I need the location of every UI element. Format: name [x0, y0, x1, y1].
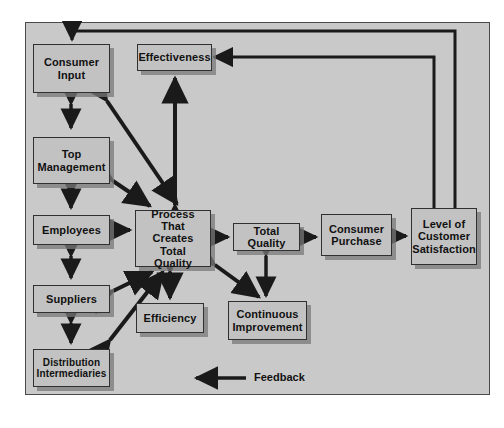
- node-suppliers: Suppliers: [33, 285, 110, 313]
- node-total-quality: Total Quality: [233, 223, 300, 251]
- node-label: Process ThatCreates TotalQuality: [136, 208, 210, 270]
- arrow-process-continuous-improvement: [215, 265, 259, 297]
- node-top-management: TopManagement: [33, 137, 110, 184]
- feedback-loop-effectiveness: [214, 57, 434, 208]
- node-label: Total Quality: [234, 225, 299, 250]
- node-label: ContinuousImprovement: [230, 308, 304, 333]
- node-consumer-purchase: ConsumerPurchase: [321, 214, 392, 256]
- node-employees: Employees: [33, 215, 110, 245]
- node-label: ConsumerPurchase: [327, 223, 386, 248]
- node-continuous-improvement: ContinuousImprovement: [228, 301, 307, 340]
- node-label: DistributionIntermediaries: [35, 357, 109, 379]
- node-label: ConsumerInput: [42, 56, 101, 81]
- node-process-creates-total-quality: Process ThatCreates TotalQuality: [135, 210, 211, 267]
- node-label: TopManagement: [35, 148, 107, 173]
- arrow-consumer-input-process: [107, 101, 177, 204]
- node-consumer-input: ConsumerInput: [33, 44, 110, 93]
- node-label: Efficiency: [142, 312, 199, 324]
- node-label: Employees: [40, 224, 103, 236]
- node-label: Level ofCustomerSatisfaction: [410, 218, 478, 255]
- node-distribution-intermediaries: DistributionIntermediaries: [33, 349, 110, 387]
- node-label: Effectiveness: [136, 51, 212, 63]
- node-effectiveness: Effectiveness: [137, 44, 212, 71]
- arrow-top-management-process: [113, 181, 150, 206]
- node-label: Suppliers: [44, 293, 99, 305]
- arrow-suppliers-process: [113, 272, 152, 291]
- node-efficiency: Efficiency: [136, 303, 204, 333]
- diagram-canvas: ConsumerInputTopManagementEmployeesSuppl…: [0, 0, 504, 428]
- node-level-of-customer-satisfaction: Level ofCustomerSatisfaction: [411, 208, 477, 265]
- feedback-legend-label: Feedback: [254, 371, 305, 383]
